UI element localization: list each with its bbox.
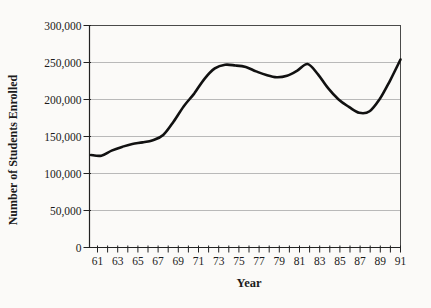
y-tick-label: 50,000 — [50, 205, 82, 218]
x-tick-label: 91 — [395, 255, 407, 267]
x-tick-label: 69 — [173, 255, 185, 267]
y-axis-title: Number of Students Enrolled — [6, 74, 20, 225]
x-tick-label: 77 — [253, 255, 265, 267]
enrollment-chart-svg: 050,000100,000150,000200,000250,000300,0… — [0, 0, 431, 308]
x-tick-label: 75 — [233, 255, 245, 267]
x-tick-label: 89 — [375, 255, 387, 267]
x-tick-label: 71 — [193, 255, 205, 267]
y-tick-label: 150,000 — [44, 131, 82, 144]
x-tick-label: 65 — [132, 255, 144, 267]
y-tick-label: 200,000 — [44, 94, 82, 107]
x-tick-label: 81 — [294, 255, 306, 267]
y-tick-label: 300,000 — [44, 20, 82, 33]
x-tick-label: 85 — [334, 255, 346, 267]
x-tick-label: 63 — [112, 255, 124, 267]
grid-layer — [90, 63, 401, 211]
x-tick-label: 83 — [314, 255, 326, 267]
y-tick-label: 250,000 — [44, 57, 82, 70]
tick-layer — [84, 26, 401, 253]
y-tick-label: 0 — [76, 242, 82, 254]
x-tick-label: 73 — [213, 255, 225, 267]
x-tick-label: 67 — [152, 255, 164, 267]
x-tick-label: 79 — [274, 255, 286, 267]
enrollment-chart-figure: 050,000100,000150,000200,000250,000300,0… — [0, 0, 431, 308]
tick-label-layer: 050,000100,000150,000200,000250,000300,0… — [44, 20, 406, 267]
x-axis-title: Year — [237, 276, 262, 290]
y-tick-label: 100,000 — [44, 168, 82, 181]
enrollment-line — [91, 60, 401, 156]
x-tick-label: 61 — [92, 255, 104, 267]
x-tick-label: 87 — [354, 255, 366, 267]
